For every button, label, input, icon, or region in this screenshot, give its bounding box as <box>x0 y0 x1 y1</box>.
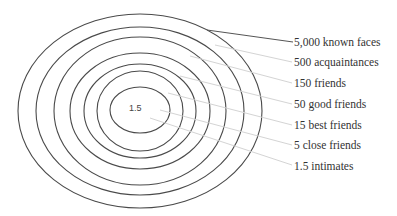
label-good-friends: 50 good friends <box>294 97 366 111</box>
center-label: 1.5 <box>129 102 142 114</box>
label-acquaintances: 500 acquaintances <box>294 55 379 69</box>
leader-acquaintances <box>215 45 292 62</box>
label-intimates: 1.5 intimates <box>294 159 353 173</box>
leader-good-friends <box>180 76 292 104</box>
label-friends: 150 friends <box>294 76 346 90</box>
label-close-friends: 5 close friends <box>294 138 361 152</box>
label-known-faces: 5,000 known faces <box>294 35 381 49</box>
leader-lines <box>150 30 293 165</box>
leader-intimates <box>150 118 292 165</box>
leader-known-faces <box>207 30 293 42</box>
label-best-friends: 15 best friends <box>294 118 362 132</box>
leader-best-friends <box>168 93 292 125</box>
leader-friends <box>190 56 292 83</box>
